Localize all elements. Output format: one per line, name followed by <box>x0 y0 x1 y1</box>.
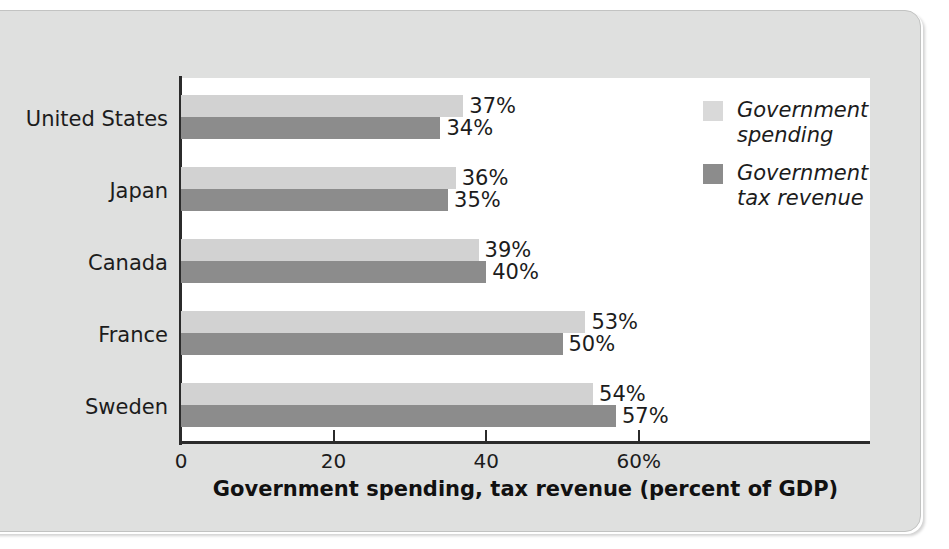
bar-spending <box>181 239 479 261</box>
bar-spending <box>181 311 585 333</box>
category-label-wrap: Canada <box>0 253 168 274</box>
x-axis-line <box>179 441 870 444</box>
legend-item-government-spending: Government spending <box>703 98 868 148</box>
category-label: Canada <box>0 253 168 274</box>
legend-swatch-spending-icon <box>703 101 723 121</box>
category-label-wrap: Sweden <box>0 397 168 418</box>
bar-spending <box>181 167 456 189</box>
bar-value-label: 39% <box>485 239 532 261</box>
x-axis-title: Government spending, tax revenue (percen… <box>181 477 870 501</box>
x-tick-mark <box>485 430 487 441</box>
bar-revenue <box>181 333 563 355</box>
bar-value-label: 35% <box>454 189 501 211</box>
chart-screenshot: 0204060% 37%34%36%35%39%40%53%50%54%57% … <box>0 0 949 549</box>
category-label-wrap: Japan <box>0 181 168 202</box>
bar-revenue <box>181 117 440 139</box>
bar-revenue <box>181 261 486 283</box>
x-tick-label: 40 <box>473 449 498 473</box>
x-tick-label: 60% <box>617 449 661 473</box>
bar-value-label: 37% <box>469 95 516 117</box>
legend-swatch-revenue-icon <box>703 164 723 184</box>
bar-value-label: 57% <box>622 405 669 427</box>
x-tick-label: 0 <box>175 449 188 473</box>
bar-value-label: 53% <box>591 311 638 333</box>
bar-spending <box>181 95 463 117</box>
legend-label-spending: Government spending <box>737 98 868 148</box>
bar-spending <box>181 383 593 405</box>
category-label-wrap: United States <box>0 109 168 130</box>
bar-value-label: 54% <box>599 383 646 405</box>
bar-revenue <box>181 189 448 211</box>
bar-revenue <box>181 405 616 427</box>
legend-item-government-tax-revenue: Government tax revenue <box>703 161 868 211</box>
x-tick-label: 20 <box>321 449 346 473</box>
x-tick-mark <box>180 430 182 441</box>
legend-label-revenue: Government tax revenue <box>737 161 868 211</box>
bar-value-label: 34% <box>446 117 493 139</box>
category-label: Sweden <box>0 397 168 418</box>
category-label: France <box>0 325 168 346</box>
bar-value-label: 40% <box>492 261 539 283</box>
category-label: Japan <box>0 181 168 202</box>
bar-value-label: 36% <box>462 167 509 189</box>
x-tick-mark <box>638 430 640 441</box>
category-label: United States <box>0 109 168 130</box>
category-label-wrap: France <box>0 325 168 346</box>
bar-value-label: 50% <box>569 333 616 355</box>
x-tick-mark <box>333 430 335 441</box>
